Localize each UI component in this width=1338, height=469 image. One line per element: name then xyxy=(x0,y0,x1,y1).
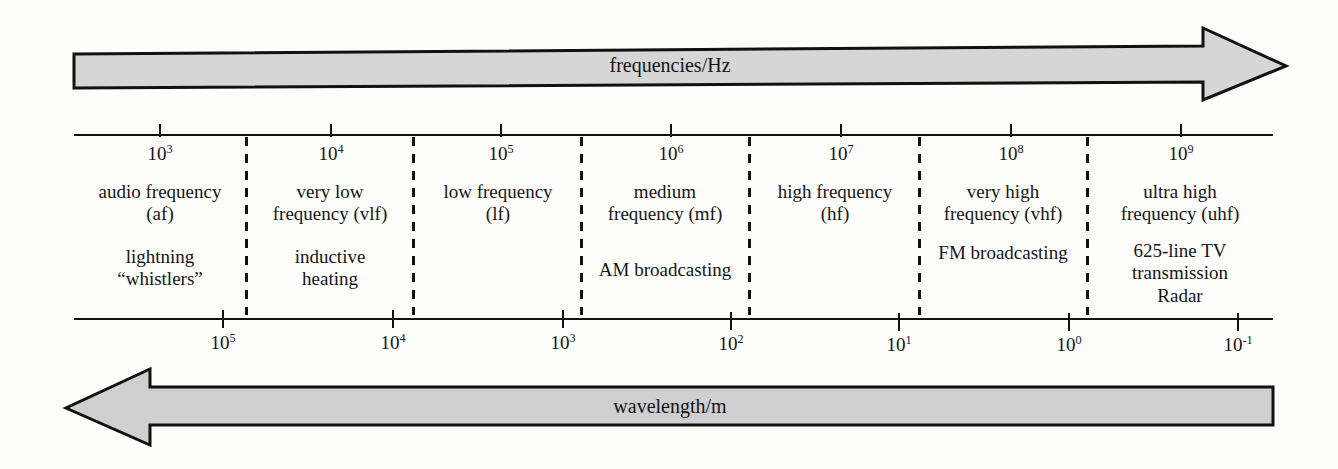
wavelength-banner: wavelength/m xyxy=(0,362,1338,450)
wavelength-tick-5 xyxy=(1068,313,1070,331)
band-name-af: audio frequency (af) xyxy=(99,181,222,226)
wavelength-tick-exp-2: 3 xyxy=(569,331,575,345)
band-name-vhf: very high frequency (vhf) xyxy=(944,181,1063,226)
frequency-tick-4 xyxy=(840,124,842,137)
frequency-tick-base-0: 10 xyxy=(147,143,166,164)
frequency-axis-line xyxy=(74,134,1273,136)
frequency-tick-label-5: 108 xyxy=(998,144,1023,163)
wavelength-tick-exp-0: 5 xyxy=(229,331,235,345)
wavelength-tick-exp-3: 2 xyxy=(737,332,743,346)
wavelength-tick-label-5: 100 xyxy=(1056,335,1081,354)
frequency-spectrum-figure: frequencies/Hz 103 104 105 106 107 108 1… xyxy=(0,0,1338,469)
wavelength-tick-exp-1: 4 xyxy=(399,331,405,345)
wavelength-banner-label: wavelength/m xyxy=(613,396,726,416)
frequency-tick-exp-5: 8 xyxy=(1017,142,1023,156)
frequency-tick-base-2: 10 xyxy=(488,143,507,164)
wavelength-tick-2 xyxy=(562,310,564,328)
wavelength-tick-label-0: 105 xyxy=(210,333,235,352)
wavelength-axis-line xyxy=(74,318,1273,320)
band-divider-0 xyxy=(245,137,248,315)
frequency-tick-2 xyxy=(500,124,502,137)
frequency-tick-1 xyxy=(330,124,332,137)
wavelength-tick-6 xyxy=(1237,313,1239,331)
wavelength-tick-label-1: 104 xyxy=(380,333,405,352)
wavelength-tick-3 xyxy=(730,312,732,330)
wavelength-tick-base-5: 10 xyxy=(1056,334,1075,355)
frequency-tick-exp-6: 9 xyxy=(1187,142,1193,156)
frequency-tick-base-5: 10 xyxy=(998,143,1017,164)
band-name-hf: high frequency (hf) xyxy=(778,181,892,226)
band-name-mf: medium frequency (mf) xyxy=(608,181,722,226)
frequency-tick-6 xyxy=(1180,124,1182,137)
wavelength-tick-label-6: 10-1 xyxy=(1223,335,1252,354)
wavelength-tick-4 xyxy=(898,313,900,331)
wavelength-tick-base-0: 10 xyxy=(210,332,229,353)
band-name-vlf: very low frequency (vlf) xyxy=(273,181,387,226)
band-use-mf: AM broadcasting xyxy=(599,259,731,281)
frequency-tick-exp-3: 6 xyxy=(677,142,683,156)
wavelength-tick-base-4: 10 xyxy=(886,334,905,355)
wavelength-tick-base-2: 10 xyxy=(550,332,569,353)
wavelength-tick-exp-4: 1 xyxy=(905,333,911,347)
wavelength-tick-1 xyxy=(392,310,394,328)
frequency-tick-0 xyxy=(159,124,161,137)
band-use-vhf: FM broadcasting xyxy=(938,242,1067,264)
frequency-tick-label-4: 107 xyxy=(828,144,853,163)
band-name-lf: low frequency (lf) xyxy=(443,181,552,226)
frequency-tick-label-1: 104 xyxy=(318,144,343,163)
frequency-tick-label-2: 105 xyxy=(488,144,513,163)
wavelength-tick-label-4: 101 xyxy=(886,335,911,354)
frequencies-banner: frequencies/Hz xyxy=(0,22,1338,104)
frequency-tick-exp-2: 5 xyxy=(507,142,513,156)
wavelength-tick-base-6: 10 xyxy=(1223,334,1242,355)
frequency-tick-exp-1: 4 xyxy=(337,142,343,156)
frequency-tick-label-0: 103 xyxy=(147,144,172,163)
frequency-tick-5 xyxy=(1010,124,1012,137)
wavelength-tick-exp-5: 0 xyxy=(1075,333,1081,347)
wavelength-tick-0 xyxy=(222,310,224,328)
frequency-tick-exp-0: 3 xyxy=(166,142,172,156)
band-divider-3 xyxy=(748,137,751,315)
frequencies-banner-label: frequencies/Hz xyxy=(609,55,730,75)
band-divider-2 xyxy=(580,137,583,315)
wavelength-tick-base-3: 10 xyxy=(718,333,737,354)
frequency-tick-3 xyxy=(670,124,672,137)
band-name-uhf: ultra high frequency (uhf) xyxy=(1121,181,1240,226)
frequency-tick-base-3: 10 xyxy=(658,143,677,164)
band-use-uhf: 625-line TV transmission Radar xyxy=(1132,240,1228,307)
frequency-tick-exp-4: 7 xyxy=(847,142,853,156)
band-divider-5 xyxy=(1086,137,1089,315)
frequency-tick-base-6: 10 xyxy=(1168,143,1187,164)
frequency-tick-base-4: 10 xyxy=(828,143,847,164)
wavelength-tick-exp-6: -1 xyxy=(1242,333,1252,347)
band-divider-4 xyxy=(918,137,921,315)
band-use-af: lightning “whistlers” xyxy=(117,246,202,291)
frequency-tick-label-3: 106 xyxy=(658,144,683,163)
frequency-tick-label-6: 109 xyxy=(1168,144,1193,163)
wavelength-tick-base-1: 10 xyxy=(380,332,399,353)
band-use-vlf: inductive heating xyxy=(295,246,366,291)
wavelength-tick-label-2: 103 xyxy=(550,333,575,352)
frequency-tick-base-1: 10 xyxy=(318,143,337,164)
band-divider-1 xyxy=(412,137,415,315)
wavelength-tick-label-3: 102 xyxy=(718,334,743,353)
